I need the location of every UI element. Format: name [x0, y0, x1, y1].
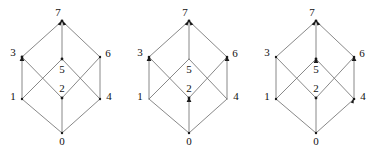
vertex-label-4: 4 [360, 90, 366, 102]
edge-6-7 [316, 21, 354, 57]
diagram-3-labels: 7 3 5 6 1 2 4 0 [264, 6, 366, 147]
vertex-label-7: 7 [309, 6, 315, 18]
vertex-label-6: 6 [359, 47, 365, 59]
vertex-label-0: 0 [313, 135, 319, 147]
vertex-label-1: 1 [264, 90, 270, 102]
vertex-dot-3 [275, 56, 277, 58]
vertex-label-5: 5 [313, 63, 319, 75]
edge-3-7 [276, 21, 316, 57]
edge-2-3 [276, 57, 316, 98]
edge-0-4 [316, 99, 354, 133]
vertex-dot-2 [315, 97, 318, 100]
arrow-head-7-left [312, 20, 316, 26]
vertex-label-2: 2 [313, 82, 319, 94]
edge-2-6 [316, 57, 354, 98]
diagram-3-edges [276, 21, 354, 133]
edge-0-1 [276, 99, 316, 133]
arrow-head-7-right [316, 20, 320, 26]
edge-4-5 [316, 59, 354, 99]
edge-1-5 [276, 59, 316, 99]
lattice-figure: 7 3 5 6 1 2 4 0 [0, 0, 380, 155]
diagram-3: 7 3 5 6 1 2 4 0 [0, 0, 380, 155]
vertex-label-3: 3 [264, 46, 270, 58]
vertex-dot-1 [275, 98, 277, 100]
arrow-head-4 [351, 98, 354, 103]
